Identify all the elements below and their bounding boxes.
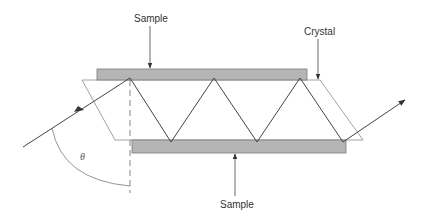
angle-arc <box>52 128 130 186</box>
theta-label: θ <box>80 151 85 162</box>
sample-top-label: Sample <box>134 13 168 24</box>
crystal-outline <box>82 80 363 140</box>
sample-bottom-plate <box>132 140 346 153</box>
crystal-label: Crystal <box>304 26 335 37</box>
sample-bottom-label: Sample <box>220 199 254 210</box>
sample-top-plate <box>97 69 307 80</box>
internal-reflection-path <box>130 78 343 142</box>
incident-ray <box>23 78 130 147</box>
exit-ray <box>343 100 405 142</box>
atr-diagram: θ Sample Crystal Sample <box>0 0 421 220</box>
